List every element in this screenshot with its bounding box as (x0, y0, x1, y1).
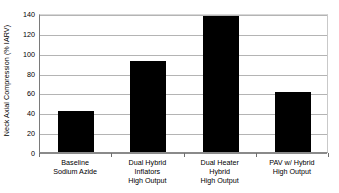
x-axis-tick (184, 153, 185, 157)
x-axis-category-label-line: High Output (256, 167, 328, 176)
x-axis-category-label-line: Baseline (39, 158, 111, 167)
bars-layer (40, 15, 327, 152)
x-axis-category-label: PAV w/ HybridHigh Output (256, 158, 328, 176)
x-axis-category-label-line: High Output (184, 176, 256, 185)
x-axis-category-label-line: Inflators (111, 167, 183, 176)
y-axis-title: Neck Axial Compression (% IARV) (0, 0, 14, 160)
x-axis-tick (111, 153, 112, 157)
y-axis-tick-labels: 020406080100120140 (14, 14, 38, 153)
x-axis-category-label-line: Sodium Azide (39, 167, 111, 176)
x-axis-category-label: BaselineSodium Azide (39, 158, 111, 176)
x-axis-category-label: Dual HeaterHybridHigh Output (184, 158, 256, 186)
x-axis-category-label-line: Hybrid (184, 167, 256, 176)
x-axis-category-label-line: PAV w/ Hybrid (256, 158, 328, 167)
plot-area (39, 14, 328, 153)
y-axis-tick-label: 140 (23, 10, 35, 19)
y-axis-tick-label: 20 (27, 129, 35, 138)
x-axis-category-label-line: Dual Hybrid (111, 158, 183, 167)
x-axis-tick (256, 153, 257, 157)
y-axis-tick-label: 0 (31, 149, 35, 158)
y-axis-tick-label: 40 (27, 109, 35, 118)
bar (130, 61, 166, 152)
bar (58, 111, 94, 152)
y-axis-title-text: Neck Axial Compression (% IARV) (3, 24, 12, 135)
x-axis-category-labels: BaselineSodium AzideDual HybridInflators… (39, 158, 328, 193)
y-axis-tick-label: 80 (27, 69, 35, 78)
bar (275, 92, 311, 152)
x-axis-tick (328, 153, 329, 157)
x-axis-category-label: Dual HybridInflatorsHigh Output (111, 158, 183, 186)
y-axis-tick-label: 100 (23, 49, 35, 58)
bar (203, 16, 239, 152)
x-axis-category-label-line: High Output (111, 176, 183, 185)
y-axis-tick-label: 120 (23, 29, 35, 38)
bar-chart: Neck Axial Compression (% IARV) 02040608… (0, 0, 339, 193)
x-axis-tick (39, 153, 40, 157)
y-axis-tick-label: 60 (27, 89, 35, 98)
x-axis-category-label-line: Dual Heater (184, 158, 256, 167)
